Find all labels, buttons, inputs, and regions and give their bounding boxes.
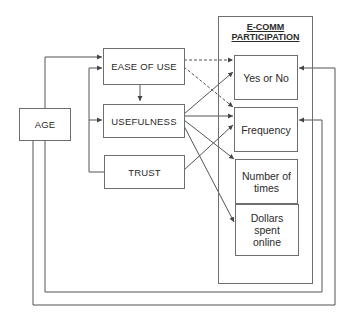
trust-label: TRUST	[128, 167, 161, 178]
ease-of-use-box: EASE OF USE	[103, 48, 185, 85]
dollars-line3: online	[253, 236, 281, 248]
number-of-times-box: Number of times	[235, 159, 298, 204]
dollars-spent-online-box: Dollars spent online	[235, 204, 299, 256]
dollars-line1: Dollars	[251, 212, 284, 224]
ecomm-title-line2: PARTICIPATION	[219, 32, 312, 42]
trust-box: TRUST	[104, 155, 185, 189]
age-box: AGE	[19, 108, 71, 141]
ecommerce-participation-diagram: E-COMM PARTICIPATION AGE EASE OF USE USE…	[0, 0, 354, 320]
usefulness-label: USEFULNESS	[111, 116, 176, 127]
yes-or-no-label: Yes or No	[243, 72, 289, 84]
number-of-times-line2: times	[254, 182, 279, 194]
age-label: AGE	[35, 119, 56, 130]
frequency-label: Frequency	[241, 124, 291, 136]
ease-of-use-label: EASE OF USE	[111, 61, 177, 72]
ecomm-title-line1: E-COMM	[219, 22, 312, 32]
usefulness-box: USEFULNESS	[103, 104, 185, 138]
edge-age-to-ease-of-use	[45, 57, 102, 108]
ecomm-participation-title: E-COMM PARTICIPATION	[219, 22, 312, 42]
yes-or-no-box: Yes or No	[234, 55, 298, 100]
number-of-times-line1: Number of	[242, 170, 291, 182]
dollars-line2: spent	[254, 224, 280, 236]
frequency-box: Frequency	[234, 107, 298, 152]
